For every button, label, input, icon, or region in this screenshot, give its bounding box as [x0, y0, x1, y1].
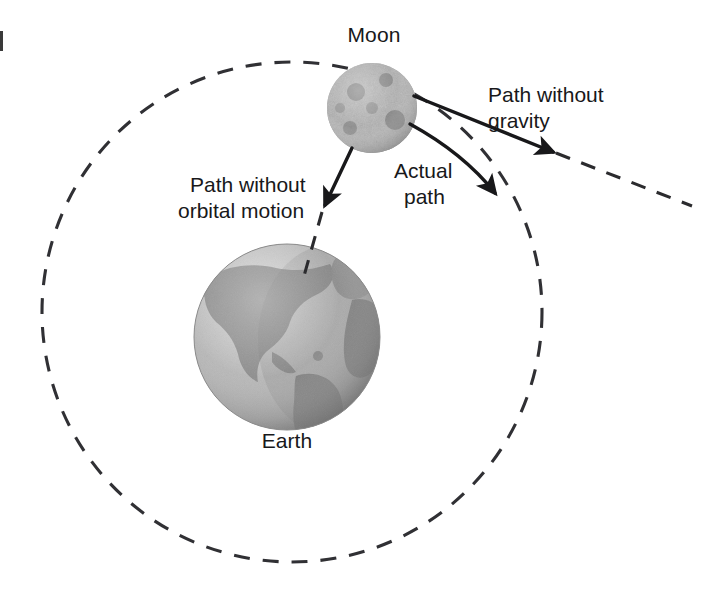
path-without-gravity-label: Path without gravity	[488, 83, 604, 132]
page-edge-mark	[0, 31, 3, 51]
actual-path-label-line1: Actual	[394, 159, 452, 182]
earth-body	[190, 240, 402, 449]
moon-body	[325, 61, 420, 156]
moon-label: Moon	[348, 23, 401, 46]
path-without-gravity-label-line1: Path without	[488, 83, 604, 106]
actual-path-label-line2: path	[404, 185, 445, 208]
actual-path-label: Actual path	[394, 159, 452, 208]
path-without-orbital-motion-label: Path without orbital motion	[178, 173, 306, 222]
diagram-svg: Moon Earth Path without gravity Actual p…	[0, 0, 715, 611]
path-without-orbital-motion-label-line2: orbital motion	[178, 199, 304, 222]
orbit-diagram-canvas: Moon Earth Path without gravity Actual p…	[0, 0, 715, 611]
path-without-gravity-label-line2: gravity	[488, 109, 550, 132]
path-without-gravity-arrow	[414, 96, 692, 206]
path-without-orbital-motion-label-line1: Path without	[190, 173, 306, 196]
earth-label: Earth	[262, 429, 313, 452]
